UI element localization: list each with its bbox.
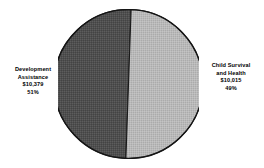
pie-svg <box>58 9 199 159</box>
pie-label-development-assistance: Development Assistance $10,379 51% <box>4 66 62 96</box>
pie-label-child-survival-health: Child Survival and Health $10,015 49% <box>200 62 262 92</box>
label-right-percent: 49% <box>200 85 262 93</box>
label-right-line2: and Health <box>200 70 262 78</box>
pie-chart-graphic <box>58 9 199 159</box>
label-left-line2: Assistance <box>4 74 62 82</box>
label-left-amount: $10,379 <box>4 81 62 89</box>
pie-chart-figure: Development Assistance $10,379 51% Child… <box>0 0 264 168</box>
pie-slice-child-survival-health <box>126 10 199 159</box>
label-left-percent: 51% <box>4 89 62 97</box>
pie-slice-development-assistance <box>58 9 131 158</box>
label-right-line1: Child Survival <box>200 62 262 70</box>
label-left-line1: Development <box>4 66 62 74</box>
label-right-amount: $10,015 <box>200 77 262 85</box>
